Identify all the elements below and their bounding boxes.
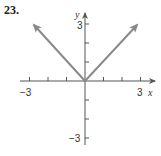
y-axis-label: y xyxy=(74,9,80,20)
y-tick-label-3: 3 xyxy=(77,20,83,31)
curve-left-branch xyxy=(34,25,85,81)
curve-right-branch xyxy=(85,25,137,81)
x-axis-label: x xyxy=(147,87,153,98)
graph: −3 3 x y 3 −3 xyxy=(0,0,161,156)
x-tick-label-3: 3 xyxy=(137,87,143,98)
y-tick-label-neg3: −3 xyxy=(69,133,81,144)
x-tick-label-neg3: −3 xyxy=(20,87,32,98)
